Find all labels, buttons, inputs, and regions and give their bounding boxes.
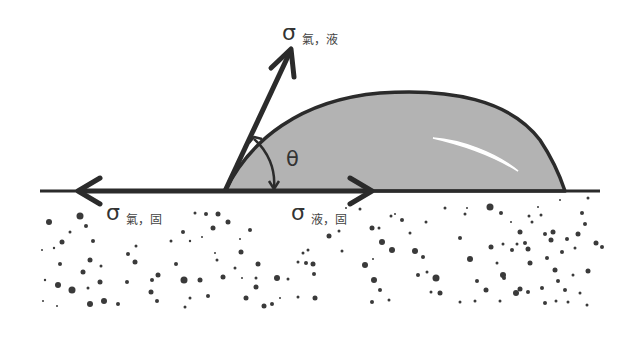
sigma-symbol: σ [282,20,296,45]
sigma-symbol: σ [106,200,120,225]
contact-angle-theta: θ [286,147,299,171]
liquid-solid-tension-label: σ液，固 [291,200,347,225]
gas-solid-tension-label: σ氣，固 [106,200,162,225]
gas-liquid-subscript: 氣，液 [302,33,338,47]
sigma-symbol: σ [291,200,305,225]
liquid-solid-subscript: 液，固 [311,213,347,227]
contact-angle-diagram [0,0,632,352]
gas-solid-subscript: 氣，固 [126,213,162,227]
gas-liquid-tension-label: σ氣，液 [282,20,338,45]
droplet [225,92,565,191]
